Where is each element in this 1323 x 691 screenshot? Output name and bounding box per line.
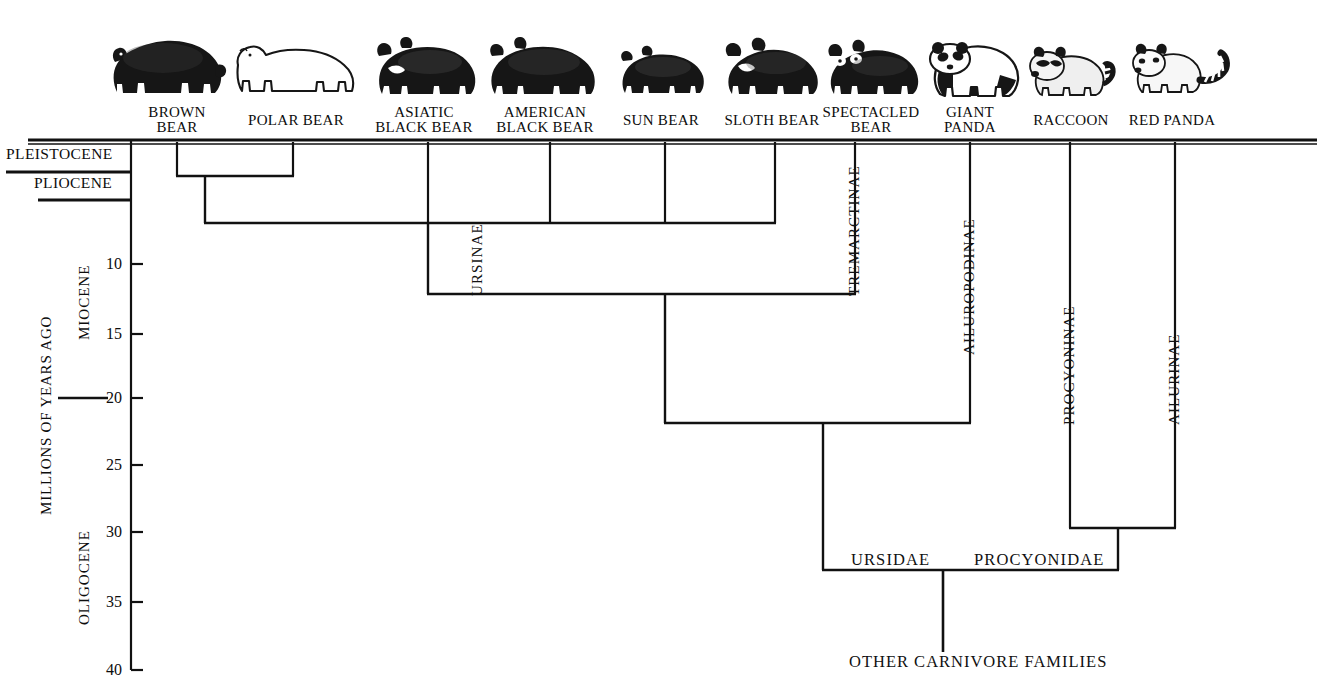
epoch-label-miocene: MIOCENE bbox=[76, 265, 93, 340]
tick-label-20: 20 bbox=[92, 389, 122, 407]
taxon-label-giant-panda: GIANT PANDA bbox=[924, 105, 1016, 135]
axis-title-millions-of-years-ago: MILLIONS OF YEARS AGO bbox=[38, 316, 55, 515]
clade-label-ailuropodinae: AILUROPODINAE bbox=[961, 218, 978, 355]
tick-label-40: 40 bbox=[92, 661, 122, 679]
tick-label-35: 35 bbox=[92, 593, 122, 611]
epoch-label-pleistocene: PLEISTOCENE bbox=[6, 145, 113, 163]
clade-label-tremarctinae: TREMARCTINAE bbox=[846, 165, 863, 296]
epoch-label-oligocene: OLIGOCENE bbox=[76, 530, 93, 625]
epoch-label-pliocene: PLIOCENE bbox=[34, 174, 112, 192]
taxon-label-brown-bear: BROWN BEAR bbox=[117, 105, 237, 135]
root-label-other-carnivore-families: OTHER CARNIVORE FAMILIES bbox=[849, 652, 1107, 672]
clade-label-procyoninae: PROCYONINAE bbox=[1061, 305, 1078, 425]
phylogenetic-tree-figure: BROWN BEAR POLAR BEAR ASIATIC BLACK BEAR… bbox=[0, 0, 1323, 691]
taxon-label-raccoon: RACCOON bbox=[1015, 113, 1127, 128]
tick-label-15: 15 bbox=[92, 325, 122, 343]
clade-label-ailurinae: AILURINAE bbox=[1166, 333, 1183, 425]
taxon-label-sun-bear: SUN BEAR bbox=[609, 113, 713, 128]
taxon-label-spectacled-bear: SPECTACLED BEAR bbox=[809, 105, 933, 135]
taxon-label-asiatic-black-bear: ASIATIC BLACK BEAR bbox=[360, 105, 488, 135]
family-label-ursidae: URSIDAE bbox=[851, 550, 930, 570]
taxon-label-red-panda: RED PANDA bbox=[1116, 113, 1228, 128]
taxon-label-polar-bear: POLAR BEAR bbox=[236, 113, 356, 128]
tick-label-30: 30 bbox=[92, 523, 122, 541]
clade-label-ursinae: URSINAE bbox=[469, 223, 486, 296]
tick-label-25: 25 bbox=[92, 456, 122, 474]
taxon-label-american-black-bear: AMERICAN BLACK BEAR bbox=[479, 105, 611, 135]
family-label-procyonidae: PROCYONIDAE bbox=[974, 550, 1104, 570]
tick-label-10: 10 bbox=[92, 255, 122, 273]
